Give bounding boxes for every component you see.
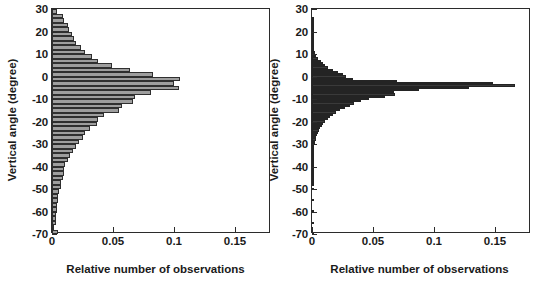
y-tick-label: -50 — [32, 183, 48, 195]
y-tick-label: -70 — [292, 228, 308, 240]
y-tick — [312, 144, 317, 145]
y-tick-label: -10 — [292, 93, 308, 105]
x-tick-label: 0.15 — [484, 235, 506, 247]
x-tick — [113, 227, 114, 232]
x-tick — [312, 227, 313, 232]
x-tick-label: 0.05 — [102, 235, 124, 247]
histogram-figure: Vertical angle (degree) urban high-rise … — [0, 0, 539, 288]
plot-area-left: 3020100-10-20-30-40-50-60-7000.050.10.15 — [51, 8, 270, 233]
x-tick — [235, 227, 236, 232]
y-tick-label: -10 — [32, 93, 48, 105]
y-tick-label: -20 — [32, 116, 48, 128]
y-tick-label: 20 — [36, 26, 48, 38]
axis-ticks-right: 3020100-10-20-30-40-50-60-7000.050.10.15 — [312, 9, 529, 232]
panel-urban-low-rise: Vertical angle (degree) urban low-rise 3… — [270, 0, 539, 288]
y-tick — [52, 122, 57, 123]
y-tick-label: 0 — [302, 71, 308, 83]
y-tick — [52, 212, 57, 213]
y-tick-label: -70 — [32, 228, 48, 240]
y-axis-label-left: Vertical angle (degree) — [6, 59, 18, 182]
y-tick — [312, 32, 317, 33]
y-tick-label: 10 — [296, 48, 308, 60]
y-tick-label: 0 — [42, 71, 48, 83]
y-tick — [312, 167, 317, 168]
plot-area-right: 3020100-10-20-30-40-50-60-7000.050.10.15 — [311, 8, 530, 233]
x-tick — [495, 227, 496, 232]
x-axis-label-left: Relative number of observations — [0, 263, 269, 275]
y-tick-label: -60 — [32, 206, 48, 218]
x-tick-label: 0.15 — [224, 235, 246, 247]
y-tick — [52, 144, 57, 145]
x-tick-label: 0 — [49, 235, 55, 247]
x-tick-label: 0.1 — [166, 235, 182, 247]
x-tick — [174, 227, 175, 232]
y-tick — [52, 54, 57, 55]
y-tick-label: -30 — [32, 138, 48, 150]
x-tick — [373, 227, 374, 232]
y-tick-label: -40 — [292, 161, 308, 173]
y-tick — [312, 212, 317, 213]
y-tick — [312, 122, 317, 123]
x-tick-label: 0 — [309, 235, 315, 247]
y-tick — [52, 99, 57, 100]
y-tick-label: -60 — [292, 206, 308, 218]
y-tick — [52, 167, 57, 168]
y-tick-label: -30 — [292, 138, 308, 150]
y-tick — [312, 189, 317, 190]
axis-ticks-left: 3020100-10-20-30-40-50-60-7000.050.10.15 — [52, 9, 269, 232]
y-tick-label: 20 — [296, 26, 308, 38]
y-tick-label: -20 — [292, 116, 308, 128]
panel-urban-high-rise: Vertical angle (degree) urban high-rise … — [0, 0, 269, 288]
y-tick — [52, 189, 57, 190]
y-tick-label: 10 — [36, 48, 48, 60]
x-axis-label-right: Relative number of observations — [270, 263, 539, 275]
y-tick — [52, 77, 57, 78]
y-tick-label: -40 — [32, 161, 48, 173]
y-tick — [312, 99, 317, 100]
y-tick — [312, 54, 317, 55]
y-tick — [52, 32, 57, 33]
y-tick-label: -50 — [292, 183, 308, 195]
x-tick-label: 0.05 — [362, 235, 384, 247]
x-tick — [52, 227, 53, 232]
y-tick — [312, 9, 317, 10]
y-axis-label-right: Vertical angle (degree) — [268, 59, 280, 182]
y-tick — [312, 77, 317, 78]
y-tick-label: 30 — [296, 3, 308, 15]
x-tick-label: 0.1 — [426, 235, 442, 247]
y-tick-label: 30 — [36, 3, 48, 15]
y-tick — [52, 9, 57, 10]
x-tick — [434, 227, 435, 232]
